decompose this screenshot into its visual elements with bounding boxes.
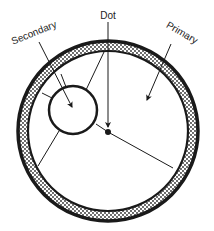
tangent-line-lower-left bbox=[38, 131, 59, 166]
dot bbox=[105, 129, 111, 135]
dot-to-ring-line bbox=[108, 132, 173, 168]
tangent-line-top-left bbox=[61, 74, 66, 87]
label-primary: Primary bbox=[165, 19, 200, 46]
tangent-line-top bbox=[86, 52, 104, 90]
label-secondary: Secondary bbox=[10, 18, 58, 46]
secondary-circle bbox=[49, 86, 97, 134]
tangent-line-left-upper bbox=[42, 93, 52, 98]
ring-diagram: Secondary Dot Primary bbox=[0, 0, 214, 231]
label-dot: Dot bbox=[100, 10, 116, 21]
